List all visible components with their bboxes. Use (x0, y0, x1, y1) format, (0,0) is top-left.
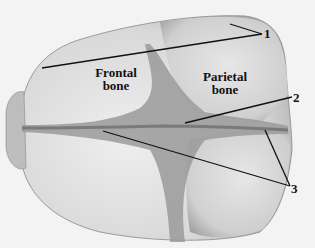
parietal-bone-label: Parietal bone (194, 70, 256, 96)
frontal-bone-label: Frontal bone (88, 66, 144, 92)
parietal-label-line2: bone (194, 83, 256, 96)
frontal-label-line2: bone (88, 79, 144, 92)
callout-3: 3 (291, 181, 298, 197)
callout-2: 2 (293, 90, 300, 106)
callout-1: 1 (264, 26, 271, 42)
skull-figure: Frontal bone Parietal bone 1 2 3 (0, 0, 315, 248)
